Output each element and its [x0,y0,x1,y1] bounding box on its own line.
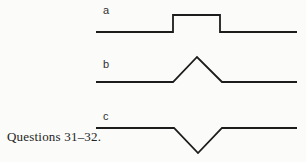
waveform-c-label: c [103,110,109,122]
waveform-b-label: b [103,58,109,70]
waveform-a-rectangular-pulse [96,15,297,32]
waveform-a-label: a [103,4,110,16]
waveform-c-inverted-triangular-pulse [96,128,297,153]
waveform-b-triangular-pulse [96,57,297,82]
waveform-canvas: a b c [0,0,306,162]
pulse-waveforms-figure: Questions 31–32. a b c [0,0,306,162]
